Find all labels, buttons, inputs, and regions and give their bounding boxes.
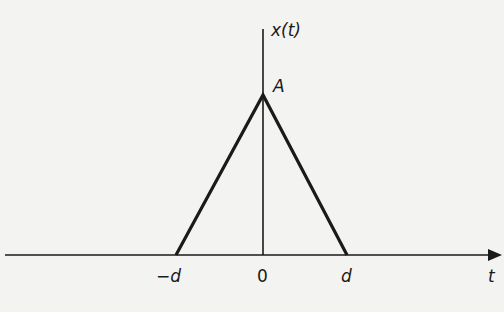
y-axis-label: x(t)	[271, 22, 301, 39]
x-axis-label: t	[488, 268, 495, 285]
tick-neg-d: −d	[156, 268, 181, 285]
tick-d: d	[341, 268, 352, 285]
t-axis-arrow-icon	[488, 249, 502, 261]
triangle-pulse	[176, 95, 347, 255]
diagram-canvas	[0, 0, 504, 312]
tick-zero: 0	[257, 268, 268, 285]
peak-label: A	[273, 78, 285, 95]
